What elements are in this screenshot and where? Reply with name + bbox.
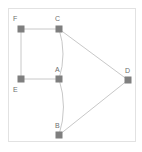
graph-node-b[interactable]	[56, 132, 63, 139]
edge-B-D	[59, 80, 128, 135]
node-label-d: D	[125, 67, 130, 74]
diagram-canvas: FCAEBD	[0, 0, 142, 152]
graph-node-d[interactable]	[125, 77, 132, 84]
graph-node-a[interactable]	[56, 76, 63, 83]
node-label-e: E	[13, 86, 18, 93]
node-label-b: B	[55, 122, 60, 129]
edge-C-D	[59, 29, 128, 80]
edge-layer	[21, 29, 128, 135]
graph-svg	[0, 0, 142, 152]
graph-node-e[interactable]	[18, 76, 25, 83]
node-label-a: A	[55, 66, 60, 73]
node-layer	[18, 26, 132, 139]
graph-node-f[interactable]	[18, 26, 25, 33]
node-label-f: F	[13, 15, 17, 22]
graph-node-c[interactable]	[56, 26, 63, 33]
node-label-c: C	[55, 15, 60, 22]
